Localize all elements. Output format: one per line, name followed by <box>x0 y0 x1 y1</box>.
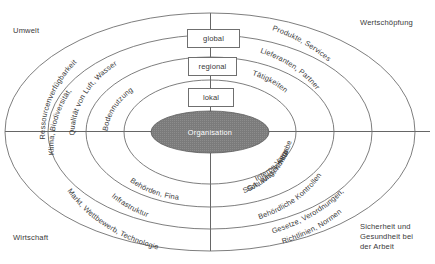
corner-label-wertschoepfung: Wertschöpfung <box>360 18 413 28</box>
corner-label-wirtschaft: Wirtschaft <box>13 233 48 243</box>
center-organisation: Organisation <box>151 111 269 153</box>
level-box-global[interactable]: global <box>187 29 240 48</box>
center-label: Organisation <box>188 128 232 137</box>
level-box-global-label: global <box>203 34 224 43</box>
level-box-regional[interactable]: regional <box>188 57 237 76</box>
ring1-label-bottom-right-l3: Schulung, Kontrolle <box>0 0 290 193</box>
ring2-label-top-right: Lieferanten, Partner <box>259 46 322 92</box>
ring1-label-bottom-right-l1: Interne Vorgaben, <box>0 0 294 183</box>
corner-label-sicherheit-gesundheit: Sicherheit und Gesundheit bei der Arbeit <box>360 222 413 252</box>
ring1-label-top-right: Tätigkeiten <box>251 68 289 94</box>
level-box-regional-label: regional <box>199 62 227 71</box>
ring2-label-top-left: Qualität von Luft, Wasser <box>67 58 118 135</box>
diagram-canvas: Organisation Klima, Biodiversität, Resso… <box>0 0 435 264</box>
corner-label-umwelt: Umwelt <box>13 26 39 36</box>
level-box-lokal[interactable]: lokal <box>188 88 234 107</box>
level-box-lokal-label: lokal <box>203 93 219 102</box>
